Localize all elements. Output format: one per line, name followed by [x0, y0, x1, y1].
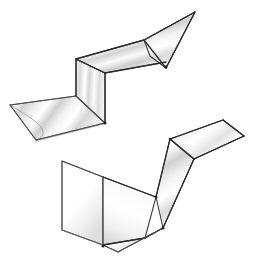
folded-sheets-svg [0, 0, 254, 275]
upper-vertex-fold [165, 66, 168, 69]
upper-vertex-bottom [104, 122, 107, 125]
lower-vertex-floor-right [155, 196, 158, 199]
upper-ribbon-group [10, 12, 195, 141]
illustration-canvas: Folded sheet illustration Two zig-zag fo… [0, 0, 254, 275]
lower-vertex-wall-bottom [102, 245, 105, 248]
lower-vertex-crease [169, 138, 172, 141]
lower-ribbon-group [62, 120, 244, 252]
lower-vertex-floor-front [162, 227, 165, 230]
